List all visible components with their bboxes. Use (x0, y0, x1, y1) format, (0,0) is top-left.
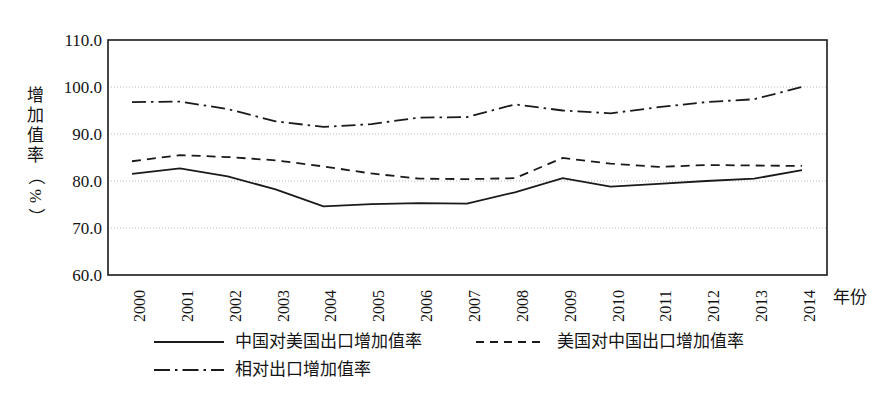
legend-swatch-dash-dot (152, 363, 226, 377)
x-axis-tick-label: 2004 (323, 280, 339, 332)
legend-label: 中国对美国出口增加值率 (235, 333, 422, 351)
chart-legend: 中国对美国出口增加值率美国对中国出口增加值率相对出口增加值率 (152, 328, 852, 384)
legend-item[interactable]: 中国对美国出口增加值率 (152, 333, 422, 351)
x-axis-tick-label: 2006 (419, 280, 435, 332)
legend-row: 中国对美国出口增加值率美国对中国出口增加值率 (152, 328, 852, 356)
legend-swatch-dashed (474, 335, 548, 349)
x-axis-tick-label: 2013 (754, 280, 770, 332)
x-axis-title: 年份 (833, 289, 867, 306)
x-axis-tick-label: 2011 (658, 280, 674, 332)
x-axis-tick-label: 2003 (276, 280, 292, 332)
x-axis-tick-label: 2001 (180, 280, 196, 332)
legend-item[interactable]: 相对出口增加值率 (152, 361, 371, 379)
x-axis-tick-label: 2014 (802, 280, 818, 332)
x-axis-tick-label: 2010 (611, 280, 627, 332)
x-axis-tick-label: 2012 (706, 280, 722, 332)
x-axis-tick-label: 2000 (132, 280, 148, 332)
x-axis-tick-label: 2009 (563, 280, 579, 332)
x-axis-tick-label: 2005 (371, 280, 387, 332)
legend-swatch-solid (152, 335, 226, 349)
x-axis-tick-label: 2007 (467, 280, 483, 332)
x-axis-tick-label: 2002 (228, 280, 244, 332)
legend-label: 美国对中国出口增加值率 (557, 333, 744, 351)
legend-row: 相对出口增加值率 (152, 356, 852, 384)
chart-figure: 增 加 值 率 （ % ） 110.0100.090.080.070.060.0… (0, 0, 881, 404)
x-axis-tick-label: 2008 (515, 280, 531, 332)
legend-item[interactable]: 美国对中国出口增加值率 (474, 333, 744, 351)
legend-label: 相对出口增加值率 (235, 361, 371, 379)
